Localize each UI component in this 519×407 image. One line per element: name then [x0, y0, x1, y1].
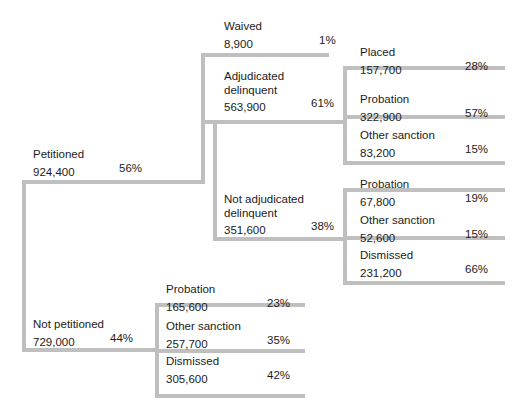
node-adj-probation-percent: 57%	[465, 107, 488, 121]
node-np-probation-percent: 23%	[267, 297, 290, 311]
node-np-dismissed-label: Dismissed	[166, 355, 311, 369]
node-np-other-sanction-percent: 35%	[267, 334, 290, 348]
node-np-other-sanction: Other sanction 257,700 35%	[166, 320, 311, 352]
node-not-petitioned-count: 729,000	[33, 336, 75, 350]
node-adj-probation-label: Probation	[360, 93, 505, 107]
node-adjudicated-count: 563,900	[224, 101, 266, 115]
node-adj-other-sanction-label: Other sanction	[360, 129, 505, 143]
node-not-adjudicated-label-line1: Not adjudicated	[224, 193, 374, 207]
connector-root-spine	[22, 180, 26, 352]
connector-adjudicated-spine	[213, 120, 217, 241]
node-np-probation: Probation 165,600 23%	[166, 283, 311, 315]
node-nadj-probation-count: 67,800	[360, 196, 395, 210]
node-np-other-sanction-label: Other sanction	[166, 320, 311, 334]
node-adj-placed: Placed 157,700 28%	[360, 46, 505, 78]
node-np-other-sanction-count: 257,700	[166, 338, 208, 352]
node-waived-count: 8,900	[224, 38, 253, 52]
node-adj-other-sanction-percent: 15%	[465, 143, 488, 157]
node-not-adjudicated-percent: 38%	[311, 220, 334, 234]
node-waived-percent: 1%	[319, 34, 336, 48]
node-adj-other-sanction-count: 83,200	[360, 147, 395, 161]
node-not-petitioned-percent: 44%	[110, 332, 133, 346]
node-adjudicated-label-line1: Adjudicated	[224, 70, 364, 84]
node-np-dismissed: Dismissed 305,600 42%	[166, 355, 311, 387]
node-adj-probation-count: 322,900	[360, 111, 402, 125]
node-adj-other-sanction: Other sanction 83,200 15%	[360, 129, 505, 161]
node-waived-label: Waived	[224, 20, 354, 34]
connector-petitioned-spine	[201, 53, 205, 184]
node-nadj-other-sanction-label: Other sanction	[360, 214, 505, 228]
node-nadj-probation-percent: 19%	[465, 192, 488, 206]
node-np-probation-label: Probation	[166, 283, 311, 297]
node-adjudicated-delinquent: Adjudicated delinquent 563,900 61%	[224, 70, 364, 116]
connector-nadj-dismissed	[343, 281, 505, 285]
node-adjudicated-label-line2: delinquent	[224, 84, 364, 98]
connector-adjudicated-out	[213, 120, 343, 124]
node-nadj-other-sanction: Other sanction 52,600 15%	[360, 214, 505, 246]
connector-np-dismissed	[155, 394, 305, 398]
node-nadj-other-sanction-count: 52,600	[360, 232, 395, 246]
node-not-adjudicated-label-line2: delinquent	[224, 207, 374, 221]
node-adj-placed-label: Placed	[360, 46, 505, 60]
node-petitioned-percent: 56%	[119, 162, 142, 176]
node-adj-probation: Probation 322,900 57%	[360, 93, 505, 125]
connector-waived-branch	[201, 53, 329, 57]
node-not-adjudicated-count: 351,600	[224, 224, 266, 238]
node-nadj-probation-label: Probation	[360, 178, 505, 192]
node-nadj-dismissed-label: Dismissed	[360, 249, 505, 263]
node-adj-placed-count: 157,700	[360, 64, 402, 78]
node-adjudicated-percent: 61%	[311, 97, 334, 111]
node-nadj-other-sanction-percent: 15%	[465, 228, 488, 242]
node-nadj-probation: Probation 67,800 19%	[360, 178, 505, 210]
node-petitioned-count: 924,400	[33, 166, 75, 180]
node-np-dismissed-percent: 42%	[267, 369, 290, 383]
node-waived: Waived 8,900 1%	[224, 20, 354, 52]
connector-adj-other	[343, 161, 505, 165]
node-not-petitioned: Not petitioned 729,000 44%	[33, 318, 183, 350]
node-np-probation-count: 165,600	[166, 301, 208, 315]
node-np-dismissed-count: 305,600	[166, 373, 208, 387]
node-nadj-dismissed: Dismissed 231,200 66%	[360, 249, 505, 281]
connector-petitioned-branch	[22, 180, 205, 184]
node-petitioned-label: Petitioned	[33, 148, 183, 162]
node-not-petitioned-label: Not petitioned	[33, 318, 183, 332]
node-not-adjudicated-delinquent: Not adjudicated delinquent 351,600 38%	[224, 193, 374, 239]
node-nadj-dismissed-percent: 66%	[465, 263, 488, 277]
node-nadj-dismissed-count: 231,200	[360, 267, 402, 281]
case-flow-diagram: Waived 8,900 1% Adjudicated delinquent 5…	[0, 0, 519, 407]
node-petitioned: Petitioned 924,400 56%	[33, 148, 183, 180]
node-adj-placed-percent: 28%	[465, 60, 488, 74]
